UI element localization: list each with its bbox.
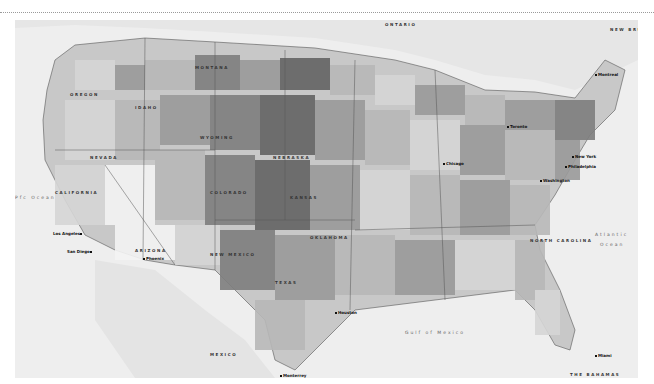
city-los-angeles: Los Angeles (53, 231, 83, 236)
state-label-texas: TEXAS (275, 280, 298, 285)
state-label-idaho: IDAHO (135, 105, 158, 110)
mexico-label: MEXICO (210, 352, 237, 357)
city-chicago: Chicago (443, 161, 464, 166)
ontario-label: ONTARIO (385, 22, 416, 27)
state-label-arizona: ARIZONA (135, 248, 167, 253)
city-washington: Washington (540, 178, 570, 183)
city-phoenix: Phoenix (143, 256, 164, 261)
map-frame[interactable]: Pfc Ocean Atlantic Ocean Gulf of Mexico … (15, 20, 638, 378)
city-san-diego: San Diego (67, 249, 93, 254)
state-label-nevada: NEVADA (90, 155, 118, 160)
city-dot-icon (335, 312, 337, 314)
city-dot-icon (90, 251, 92, 253)
atlantic-ocean-label-line2: Ocean (600, 242, 624, 247)
city-dot-icon (143, 258, 145, 260)
atlantic-ocean-label-line1: Atlantic (595, 232, 628, 237)
city-new-york: New York (572, 154, 596, 159)
city-dot-icon (595, 74, 597, 76)
state-label-montana: MONTANA (195, 65, 229, 70)
city-miami: Miami (595, 353, 612, 358)
new-brunswick-label: NEW BRUNSWICK (610, 27, 638, 32)
city-dot-icon (565, 166, 567, 168)
city-dot-icon (595, 355, 597, 357)
city-houston: Houston (335, 310, 357, 315)
state-label-kansas: KANSAS (290, 195, 318, 200)
state-label-wyoming: WYOMING (200, 135, 234, 140)
state-label-oklahoma: OKLAHOMA (310, 235, 349, 240)
city-dot-icon (280, 375, 282, 377)
state-label-oregon: OREGON (70, 92, 99, 97)
state-label-new-mexico: NEW MEXICO (210, 252, 256, 257)
city-monterrey: Monterrey (280, 373, 306, 378)
city-dot-icon (80, 233, 82, 235)
pacific-ocean-label: Pfc Ocean (15, 195, 56, 200)
gulf-of-mexico-label: Gulf of Mexico (405, 330, 465, 335)
city-montreal: Montreal (595, 72, 618, 77)
top-dotted-rule (0, 12, 654, 13)
city-dot-icon (443, 163, 445, 165)
bahamas-label: THE BAHAMAS (570, 372, 620, 377)
map-canvas (15, 20, 638, 378)
state-label-nebraska: NEBRASKA (273, 155, 310, 160)
city-dot-icon (572, 156, 574, 158)
city-toronto: Toronto (507, 124, 527, 129)
state-label-colorado: COLORADO (210, 190, 248, 195)
state-label-california: CALIFORNIA (55, 190, 98, 195)
city-dot-icon (507, 126, 509, 128)
state-label-north-carolina: NORTH CAROLINA (530, 238, 593, 243)
city-dot-icon (540, 180, 542, 182)
city-philadelphia: Philadelphia (565, 164, 596, 169)
